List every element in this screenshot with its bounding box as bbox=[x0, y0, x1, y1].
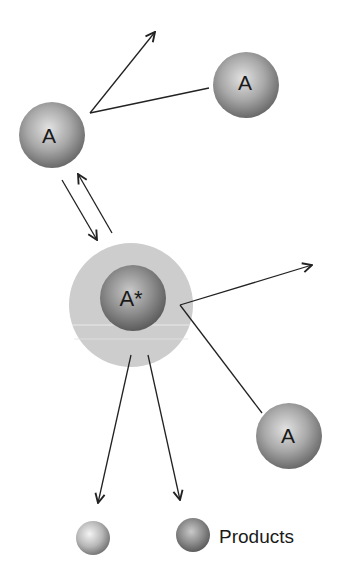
molecule-a-top-right: A bbox=[213, 52, 279, 118]
molecule-label: A bbox=[42, 124, 56, 147]
products-label: Products bbox=[219, 526, 294, 547]
equilibrium-arrows bbox=[62, 174, 112, 240]
deactivation-arrow-icon bbox=[78, 174, 112, 233]
product-sphere-light bbox=[76, 521, 110, 555]
product-sphere-dark bbox=[176, 518, 210, 552]
molecule-label: A bbox=[238, 71, 252, 94]
molecule-a-top-left: A bbox=[19, 102, 85, 168]
molecule-label: A bbox=[281, 424, 295, 447]
collision-line bbox=[180, 305, 262, 413]
collision-lines-middle bbox=[180, 265, 312, 413]
deflection-arrow bbox=[180, 265, 312, 305]
product-arrow-icon bbox=[148, 355, 180, 500]
collision-lines-top bbox=[90, 32, 209, 113]
activated-molecule: A* bbox=[100, 265, 166, 331]
activation-arrow-icon bbox=[62, 180, 97, 240]
product-arrow-icon bbox=[98, 355, 131, 503]
diagram-canvas: A A A* A Products bbox=[0, 0, 346, 583]
decomposition-arrows bbox=[98, 355, 180, 503]
activated-molecule-label: A* bbox=[119, 286, 143, 311]
molecule-a-bottom-right: A bbox=[256, 403, 322, 469]
product-molecules: Products bbox=[76, 518, 294, 555]
